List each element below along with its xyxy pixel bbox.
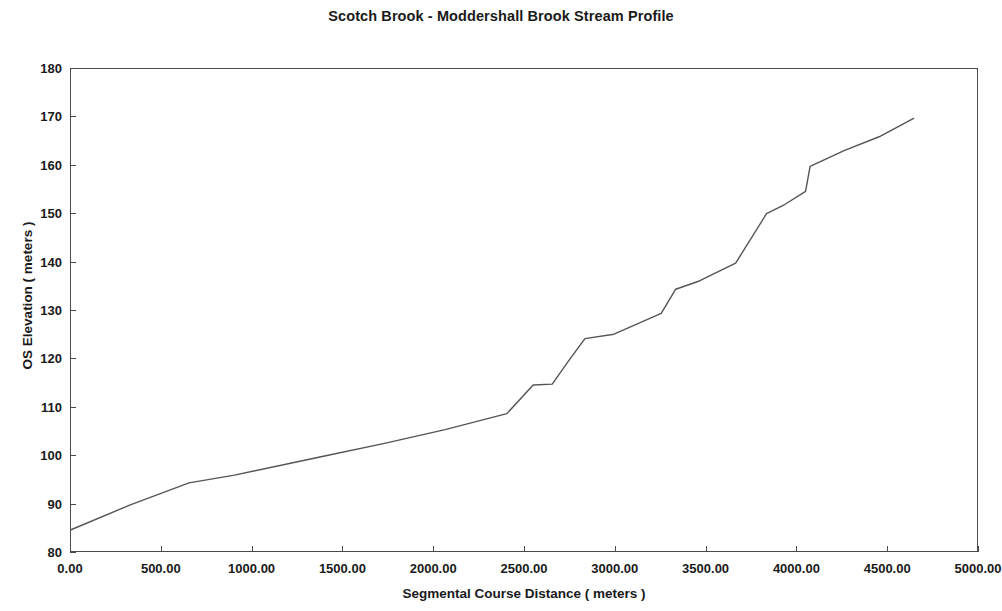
x-tick-mark bbox=[524, 546, 525, 552]
y-tick-mark bbox=[70, 552, 76, 553]
x-tick-label: 3000.00 bbox=[570, 561, 660, 576]
y-tick-label: 130 bbox=[14, 303, 62, 318]
y-tick-mark bbox=[70, 68, 76, 69]
y-tick-mark bbox=[70, 213, 76, 214]
y-tick-mark bbox=[70, 504, 76, 505]
x-tick-mark bbox=[706, 546, 707, 552]
stream-profile-chart: Scotch Brook - Moddershall Brook Stream … bbox=[0, 0, 1002, 611]
y-tick-mark bbox=[70, 455, 76, 456]
y-tick-mark bbox=[70, 310, 76, 311]
x-tick-label: 1000.00 bbox=[207, 561, 297, 576]
y-tick-label: 90 bbox=[14, 496, 62, 511]
y-tick-mark bbox=[70, 262, 76, 263]
series-line bbox=[71, 69, 979, 553]
x-tick-label: 3500.00 bbox=[661, 561, 751, 576]
x-tick-label: 500.00 bbox=[116, 561, 206, 576]
x-tick-label: 4000.00 bbox=[751, 561, 841, 576]
x-axis-title: Segmental Course Distance ( meters ) bbox=[70, 586, 978, 601]
y-tick-label: 110 bbox=[14, 399, 62, 414]
x-tick-mark bbox=[978, 546, 979, 552]
x-tick-mark bbox=[161, 546, 162, 552]
chart-title: Scotch Brook - Moddershall Brook Stream … bbox=[0, 8, 1002, 24]
y-tick-mark bbox=[70, 165, 76, 166]
x-tick-label: 2000.00 bbox=[388, 561, 478, 576]
y-tick-mark bbox=[70, 358, 76, 359]
x-tick-mark bbox=[615, 546, 616, 552]
y-tick-mark bbox=[70, 116, 76, 117]
y-tick-label: 120 bbox=[14, 351, 62, 366]
y-tick-label: 100 bbox=[14, 448, 62, 463]
x-tick-label: 2500.00 bbox=[479, 561, 569, 576]
y-tick-label: 80 bbox=[14, 545, 62, 560]
x-tick-label: 1500.00 bbox=[297, 561, 387, 576]
x-tick-mark bbox=[433, 546, 434, 552]
x-tick-mark bbox=[796, 546, 797, 552]
plot-area bbox=[70, 68, 978, 552]
y-tick-label: 180 bbox=[14, 61, 62, 76]
x-tick-mark bbox=[342, 546, 343, 552]
y-tick-mark bbox=[70, 407, 76, 408]
y-axis-tick-labels: 8090100110120130140150160170180 bbox=[0, 68, 62, 552]
x-tick-mark bbox=[252, 546, 253, 552]
x-tick-mark bbox=[70, 546, 71, 552]
y-tick-label: 170 bbox=[14, 109, 62, 124]
y-tick-label: 140 bbox=[14, 254, 62, 269]
y-tick-label: 150 bbox=[14, 206, 62, 221]
y-tick-label: 160 bbox=[14, 157, 62, 172]
x-tick-label: 0.00 bbox=[25, 561, 115, 576]
x-tick-mark bbox=[887, 546, 888, 552]
x-tick-label: 4500.00 bbox=[842, 561, 932, 576]
series-polyline bbox=[71, 118, 914, 529]
x-tick-label: 5000.00 bbox=[933, 561, 1002, 576]
